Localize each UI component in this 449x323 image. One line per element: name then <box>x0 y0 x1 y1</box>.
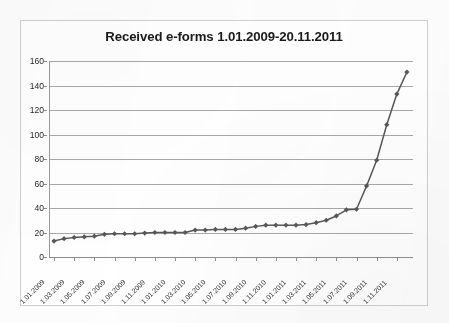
x-axis-tick-mark <box>54 257 55 261</box>
data-point-marker <box>132 231 137 236</box>
data-point-marker <box>72 235 77 240</box>
x-axis-tick-mark <box>115 257 116 261</box>
data-point-marker <box>273 223 278 228</box>
x-axis-tick-mark <box>296 257 297 261</box>
data-point-marker <box>61 236 66 241</box>
y-axis-tick-mark <box>44 61 47 62</box>
x-axis-tick-mark <box>215 257 216 261</box>
data-point-marker <box>354 207 359 212</box>
data-point-marker <box>82 234 87 239</box>
data-point-marker <box>92 234 97 239</box>
data-point-marker <box>253 224 258 229</box>
x-axis-tick-mark <box>336 257 337 261</box>
y-axis-tick-label: 60 <box>8 179 44 189</box>
series-line <box>54 72 407 241</box>
y-axis-tick-mark <box>44 86 47 87</box>
y-axis-tick-label: 0 <box>8 252 44 262</box>
x-axis-tick-mark <box>94 257 95 261</box>
data-point-marker <box>112 231 117 236</box>
data-point-marker <box>314 220 319 225</box>
y-axis-tick-label: 20 <box>8 228 44 238</box>
data-point-marker <box>142 231 147 236</box>
data-point-marker <box>162 230 167 235</box>
data-point-marker <box>283 223 288 228</box>
data-point-marker <box>193 227 198 232</box>
y-axis-tick-mark <box>44 208 47 209</box>
scanned-chart-page: Received e-forms 1.01.2009-20.11.2011 02… <box>0 0 449 323</box>
x-axis-tick-mark <box>377 257 378 261</box>
x-axis-tick-mark <box>236 257 237 261</box>
y-axis-tick-mark <box>44 184 47 185</box>
data-series <box>50 61 413 257</box>
data-point-marker <box>394 91 399 96</box>
y-axis-tick-label: 160 <box>8 56 44 66</box>
y-axis-tick-label: 100 <box>8 130 44 140</box>
data-point-marker <box>243 226 248 231</box>
x-axis-tick-mark <box>74 257 75 261</box>
x-axis-tick-mark <box>155 257 156 261</box>
data-point-marker <box>293 223 298 228</box>
x-axis-tick-mark <box>357 257 358 261</box>
y-axis-tick-labels: 020406080100120140160 <box>6 61 44 257</box>
x-axis-tick-mark <box>175 257 176 261</box>
y-axis-tick-label: 120 <box>8 105 44 115</box>
data-point-marker <box>404 69 409 74</box>
y-axis-tick-label: 80 <box>8 154 44 164</box>
x-axis-tick-mark <box>135 257 136 261</box>
data-point-marker <box>213 227 218 232</box>
data-point-marker <box>324 218 329 223</box>
data-point-marker <box>102 232 107 237</box>
series-markers <box>51 69 409 243</box>
x-axis-tick-mark <box>276 257 277 261</box>
data-point-marker <box>51 238 56 243</box>
data-point-marker <box>122 231 127 236</box>
plot-area <box>50 61 413 257</box>
y-axis-tick-mark <box>44 257 47 258</box>
y-axis-tick-mark <box>44 233 47 234</box>
data-point-marker <box>364 183 369 188</box>
data-point-marker <box>223 227 228 232</box>
x-axis-tick-mark <box>397 257 398 261</box>
y-axis-tick-mark <box>44 110 47 111</box>
x-axis-tick-mark <box>316 257 317 261</box>
y-axis-tick-mark <box>44 159 47 160</box>
data-point-marker <box>172 230 177 235</box>
y-axis-tick-label: 40 <box>8 203 44 213</box>
data-point-marker <box>182 230 187 235</box>
chart-title: Received e-forms 1.01.2009-20.11.2011 <box>20 29 428 44</box>
y-axis-tick-mark <box>44 135 47 136</box>
data-point-marker <box>303 222 308 227</box>
data-point-marker <box>203 227 208 232</box>
x-axis-tick-mark <box>195 257 196 261</box>
data-point-marker <box>374 158 379 163</box>
y-axis-tick-label: 140 <box>8 81 44 91</box>
data-point-marker <box>152 230 157 235</box>
x-axis-tick-labels: 1.01.20091.03.20091.05.20091.07.20091.09… <box>50 262 430 310</box>
data-point-marker <box>263 223 268 228</box>
x-axis-tick-mark <box>256 257 257 261</box>
data-point-marker <box>233 227 238 232</box>
data-point-marker <box>384 122 389 127</box>
